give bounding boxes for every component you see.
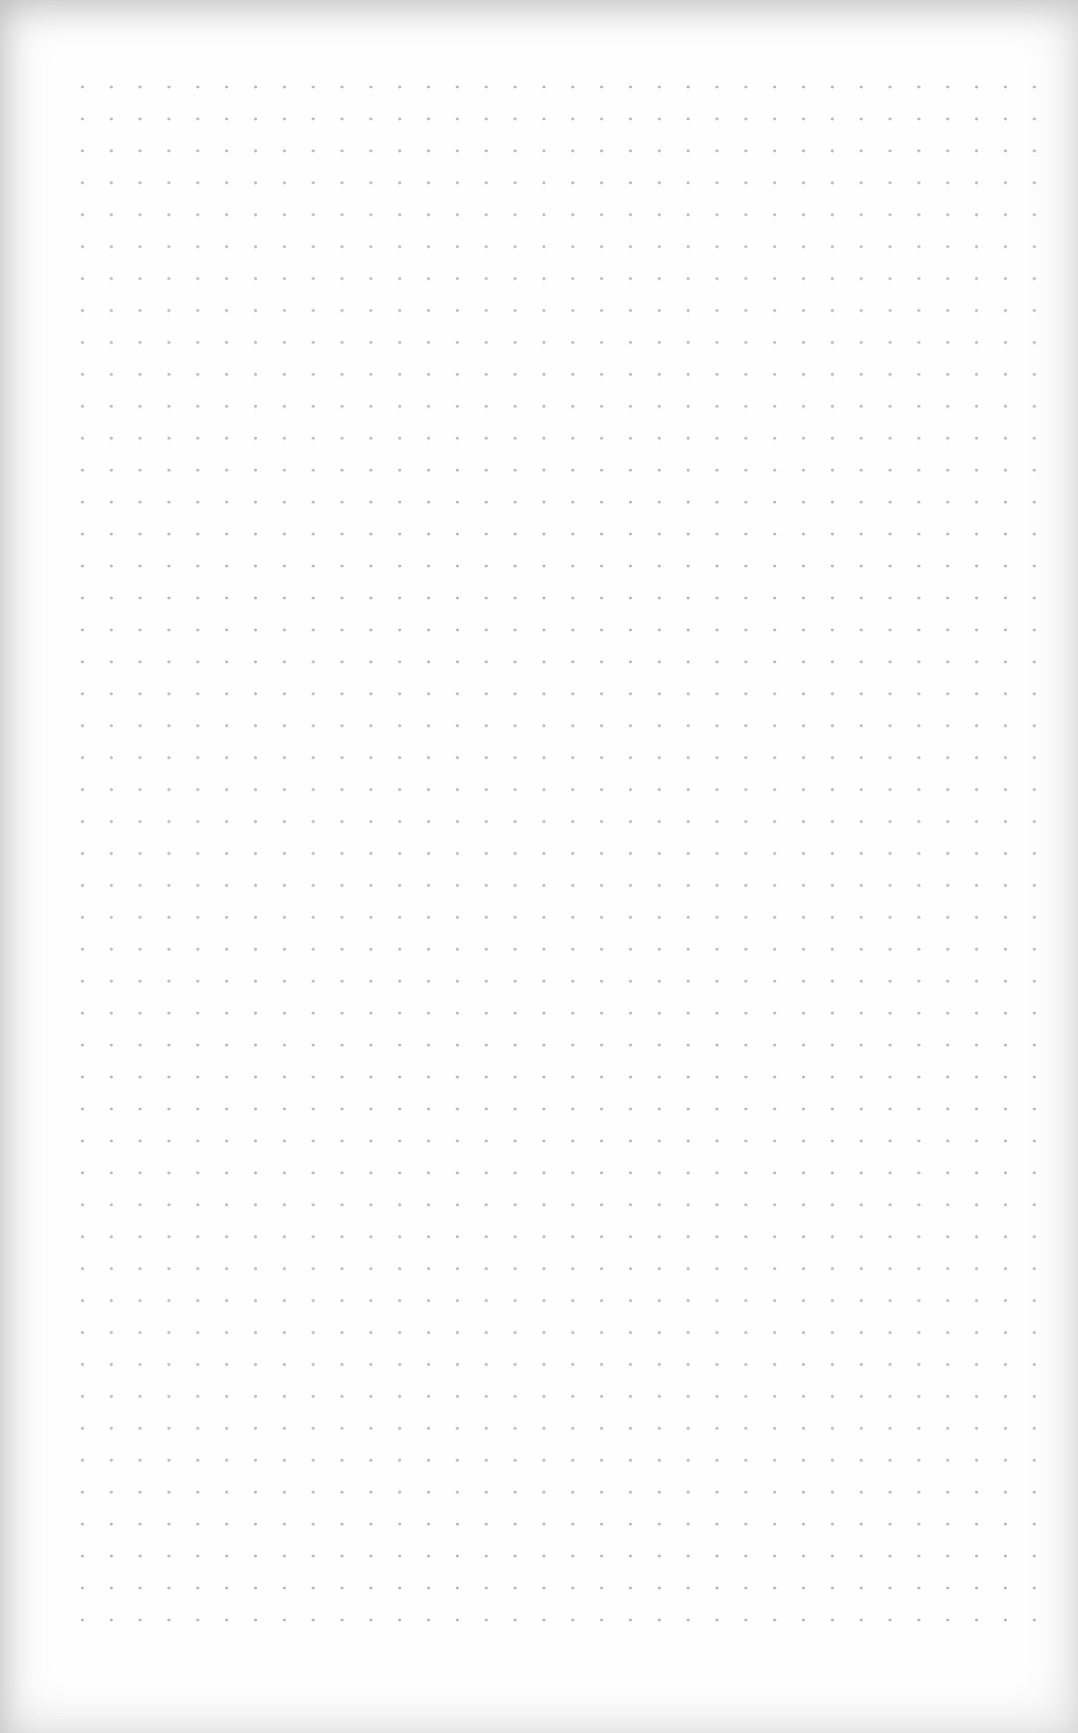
dot-grid-page (0, 0, 1078, 1733)
dot-grid-pattern (68, 71, 1058, 1641)
